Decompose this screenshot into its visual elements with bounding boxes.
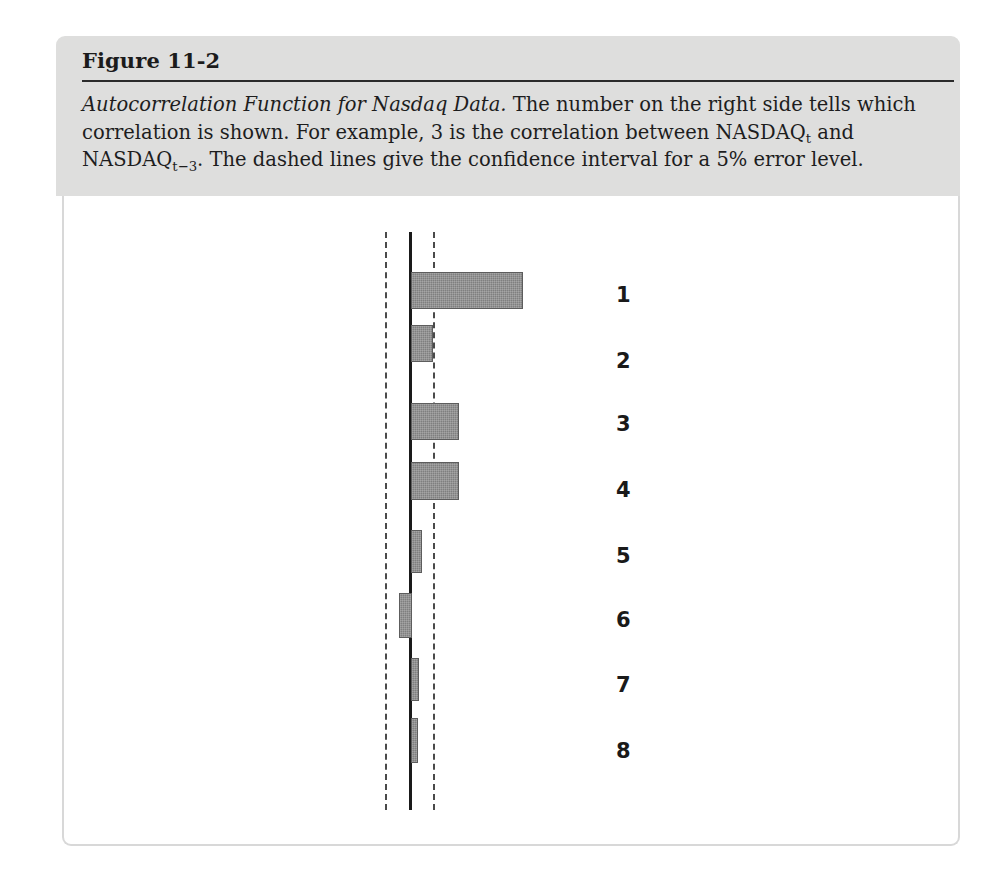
caption-subscript-2: t−3 bbox=[172, 159, 197, 174]
figure-container: Figure 11-2 Autocorrelation Function for… bbox=[0, 0, 1002, 891]
caption-divider bbox=[82, 80, 954, 82]
plot-panel bbox=[62, 196, 960, 846]
caption-body-part-3: . The dashed lines give the confidence i… bbox=[197, 148, 864, 171]
figure-number-label: Figure 11-2 bbox=[82, 50, 930, 71]
caption-subscript-1: t bbox=[806, 131, 811, 146]
figure-caption-panel: Figure 11-2 Autocorrelation Function for… bbox=[56, 36, 960, 196]
figure-caption-text: Autocorrelation Function for Nasdaq Data… bbox=[82, 91, 947, 174]
caption-title: Autocorrelation Function for Nasdaq Data… bbox=[82, 93, 507, 116]
